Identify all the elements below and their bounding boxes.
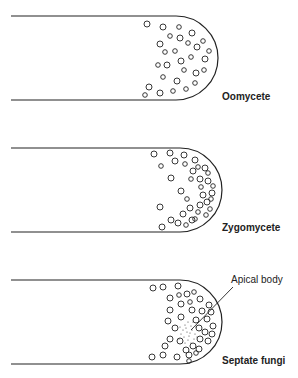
septate-hypha-outline (11, 280, 222, 364)
label-oomycete: Oomycete (222, 91, 270, 102)
oomycete-vesicles (143, 21, 212, 97)
zygomycete-hypha-outline (11, 148, 222, 232)
label-apical-body: Apical body (231, 274, 283, 285)
label-septate-fungi: Septate fungi (222, 355, 285, 366)
septate-vesicles (149, 283, 216, 363)
apical-body (178, 321, 197, 343)
hyphal-tips-diagram (0, 0, 298, 378)
zygomycete-vesicles (151, 150, 215, 230)
label-zygomycete: Zygomycete (222, 222, 280, 233)
